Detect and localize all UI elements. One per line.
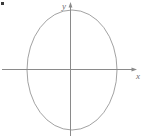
y-axis-arrowhead — [69, 2, 73, 8]
figure-canvas: y x — [0, 0, 143, 136]
x-axis-label: x — [135, 71, 140, 81]
y-axis-label: y — [61, 1, 66, 11]
ellipse-diagram: y x — [0, 0, 143, 136]
